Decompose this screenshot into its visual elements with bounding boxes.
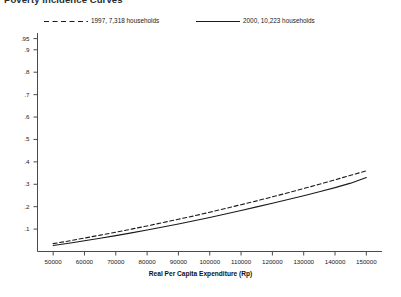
y-tick-label: .7 [12,91,30,98]
x-tick-label: 60000 [67,258,101,265]
x-tick-label: 80000 [130,258,164,265]
x-tick-label: 110000 [224,258,258,265]
x-axis-title: Real Per Capita Expenditure (Rp) [0,270,401,277]
x-tick-label: 100000 [193,258,227,265]
y-tick-label: .2 [12,203,30,210]
y-tick-label: .3 [12,180,30,187]
x-tick-label: 70000 [99,258,133,265]
y-tick-label: .95 [12,35,30,42]
x-tick-label: 50000 [36,258,70,265]
x-tick-label: 150000 [349,258,383,265]
x-tick-label: 130000 [287,258,321,265]
y-tick-label: .4 [12,158,30,165]
y-tick-label: .8 [12,68,30,75]
x-axis [38,252,383,256]
x-tick-label: 120000 [255,258,289,265]
poverty-incidence-chart: Poverty Incidence Curves 1997, 7,318 hou… [0,0,401,297]
plot-area [0,0,401,297]
y-axis [34,33,38,252]
y-tick-label: .1 [12,225,30,232]
series-line-0 [53,171,366,244]
y-tick-label: .6 [12,113,30,120]
data-series-group [53,171,366,246]
y-tick-label: .5 [12,135,30,142]
x-tick-label: 90000 [161,258,195,265]
x-tick-label: 140000 [318,258,352,265]
y-tick-label: .9 [12,46,30,53]
